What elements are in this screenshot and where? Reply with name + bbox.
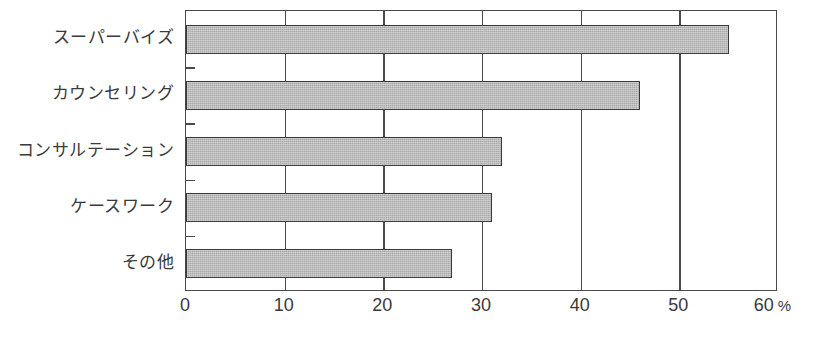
bar xyxy=(186,25,729,54)
value-tick-label-0: 0 xyxy=(180,296,190,314)
bar xyxy=(186,137,502,166)
category-label: スーパーバイズ xyxy=(53,29,175,46)
value-tick-label-30: 30 xyxy=(471,296,491,314)
category-label: コンサルテーション xyxy=(17,142,175,159)
value-axis-tick-labels: 0102030405060% xyxy=(0,296,823,324)
category-axis-tick xyxy=(186,180,195,182)
category-axis-tick xyxy=(186,236,195,238)
category-axis-tick xyxy=(186,123,195,125)
value-tick-label-60: 60% xyxy=(754,296,791,314)
unit-label: % xyxy=(778,297,791,314)
category-axis-tick xyxy=(186,67,195,69)
value-tick-label-40: 40 xyxy=(570,296,590,314)
bar xyxy=(186,81,640,110)
value-tick-label-10: 10 xyxy=(274,296,294,314)
horizontal-bar-chart: スーパーバイズカウンセリングコンサルテーションケースワークその他 0102030… xyxy=(0,0,823,343)
category-axis-labels: スーパーバイズカウンセリングコンサルテーションケースワークその他 xyxy=(0,10,180,291)
category-label: その他 xyxy=(122,254,175,271)
value-tick-label-20: 20 xyxy=(372,296,392,314)
bar xyxy=(186,193,492,222)
bar xyxy=(186,249,452,278)
plot-area xyxy=(185,10,777,291)
value-tick-label-50: 50 xyxy=(668,296,688,314)
category-label: カウンセリング xyxy=(52,85,175,102)
category-label: ケースワーク xyxy=(70,198,174,215)
